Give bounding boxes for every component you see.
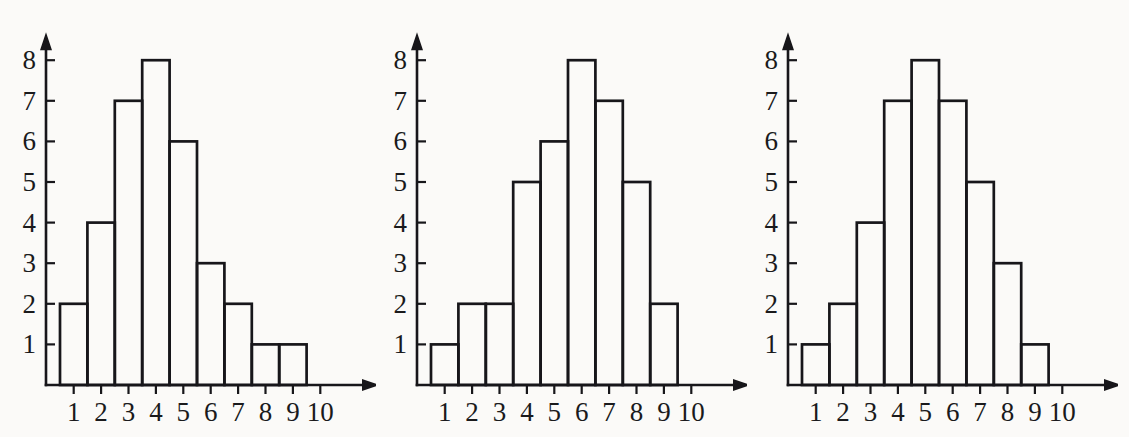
histogram-bar [595,101,622,385]
histogram-bar [197,263,224,385]
y-axis-arrowhead-icon [411,32,423,50]
y-axis-tick-label: 8 [23,45,37,75]
histogram-plot-2: 1234567812345678910 [371,0,747,437]
histogram-bar [513,182,540,385]
x-axis-arrowhead-icon [1104,379,1118,391]
y-axis-tick-label: 4 [394,208,408,238]
histogram-bar [170,141,197,385]
y-axis-tick-label: 1 [23,329,37,359]
y-axis-tick-label: 5 [23,167,37,197]
histogram-bar [1021,344,1048,385]
histogram-bar [224,304,251,385]
x-axis-tick-label: 2 [465,397,479,427]
y-axis-tick-label: 6 [765,126,779,156]
histogram-bar [912,60,939,385]
histogram-bar [115,101,142,385]
y-axis-tick-label: 2 [394,289,408,319]
y-axis-tick-label: 2 [765,289,779,319]
x-axis-tick-label: 4 [520,397,534,427]
histogram-bar [279,344,306,385]
y-axis-tick-label: 4 [765,208,779,238]
x-axis-tick-label: 3 [864,397,878,427]
x-axis-tick-label: 5 [548,397,562,427]
y-axis-tick-label: 4 [23,208,37,238]
histogram-bar [252,344,279,385]
y-axis-tick-label: 7 [394,86,408,116]
histogram-panel-2: 1234567812345678910 [371,0,747,437]
x-axis-tick-label: 10 [307,397,334,427]
x-axis-tick-label: 1 [438,397,452,427]
histogram-bar [568,60,595,385]
histogram-bar [87,223,114,385]
x-axis-tick-label: 2 [94,397,108,427]
x-axis-tick-label: 8 [630,397,644,427]
y-axis-tick-label: 2 [23,289,37,319]
y-axis-tick-label: 7 [23,86,37,116]
x-axis-tick-label: 8 [259,397,273,427]
x-axis-tick-label: 6 [204,397,218,427]
x-axis-tick-label: 5 [177,397,191,427]
y-axis-arrowhead-icon [782,32,794,50]
histogram-bar [60,304,87,385]
histogram-panel-1: 1234567812345678910 [0,0,376,437]
x-axis-tick-label: 7 [231,397,245,427]
histogram-bar [829,304,856,385]
x-axis-tick-label: 4 [891,397,905,427]
x-axis-tick-label: 9 [657,397,671,427]
y-axis-tick-label: 3 [394,248,408,278]
x-axis-tick-label: 7 [973,397,987,427]
x-axis-tick-label: 6 [575,397,589,427]
y-axis-tick-label: 6 [394,126,408,156]
histogram-bar [623,182,650,385]
x-axis-tick-label: 3 [493,397,507,427]
y-axis-tick-label: 3 [23,248,37,278]
x-axis-tick-label: 1 [809,397,823,427]
x-axis-tick-label: 7 [602,397,616,427]
x-axis-tick-label: 8 [1001,397,1015,427]
x-axis-tick-label: 2 [836,397,850,427]
x-axis-tick-label: 3 [122,397,136,427]
histogram-bar [939,101,966,385]
histogram-plot-3: 1234567812345678910 [742,0,1118,437]
x-axis-tick-label: 4 [149,397,163,427]
x-axis-tick-label: 9 [1028,397,1042,427]
histogram-bar [857,223,884,385]
x-axis-tick-label: 10 [678,397,705,427]
histogram-bar [966,182,993,385]
histogram-bar [994,263,1021,385]
y-axis-tick-label: 5 [394,167,408,197]
y-axis-tick-label: 5 [765,167,779,197]
histogram-bar [431,344,458,385]
y-axis-tick-label: 7 [765,86,779,116]
x-axis-tick-label: 9 [286,397,300,427]
y-axis-tick-label: 1 [394,329,408,359]
histogram-bar [458,304,485,385]
x-axis-tick-label: 6 [946,397,960,427]
y-axis-tick-label: 6 [23,126,37,156]
histogram-bar [486,304,513,385]
histogram-bar [884,101,911,385]
histogram-bar [142,60,169,385]
histogram-bar [541,141,568,385]
histogram-bar [650,304,677,385]
y-axis-tick-label: 3 [765,248,779,278]
y-axis-tick-label: 8 [765,45,779,75]
x-axis-tick-label: 10 [1049,397,1076,427]
y-axis-arrowhead-icon [40,32,52,50]
histogram-figure: 1234567812345678910 1234567812345678910 … [0,0,1129,437]
histogram-plot-1: 1234567812345678910 [0,0,376,437]
x-axis-tick-label: 1 [67,397,81,427]
y-axis-tick-label: 8 [394,45,408,75]
histogram-bar [802,344,829,385]
x-axis-tick-label: 5 [919,397,933,427]
histogram-panel-3: 1234567812345678910 [742,0,1118,437]
y-axis-tick-label: 1 [765,329,779,359]
